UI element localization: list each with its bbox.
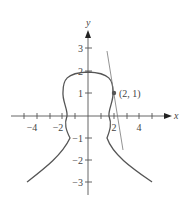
y-tick-label: 3 [78,43,83,54]
x-tick-label: 4 [137,122,142,133]
y-tick-label: −3 [72,177,83,188]
point-label: (2, 1) [119,88,141,100]
x-axis: −4 −2 2 4 x [11,110,179,133]
x-axis-arrow-icon [164,113,172,119]
point-marker [112,91,116,95]
x-tick-label: 2 [112,122,117,133]
x-tick-label: −2 [53,122,64,133]
x-tick-label: −4 [27,122,38,133]
implicit-curve-figure: −4 −2 2 4 x 3 2 1 −1 −2 −3 y (2, 1) [0,0,188,204]
y-tick-label: −2 [72,155,83,166]
y-axis-arrow-icon [85,30,91,38]
tangent-line [107,51,123,150]
y-axis: 3 2 1 −1 −2 −3 y [72,17,92,195]
y-axis-label: y [85,17,91,28]
y-tick-label: 1 [78,88,83,99]
y-tick-label: 2 [78,66,83,77]
y-tick-label: −1 [72,133,83,144]
x-axis-label: x [173,110,179,121]
